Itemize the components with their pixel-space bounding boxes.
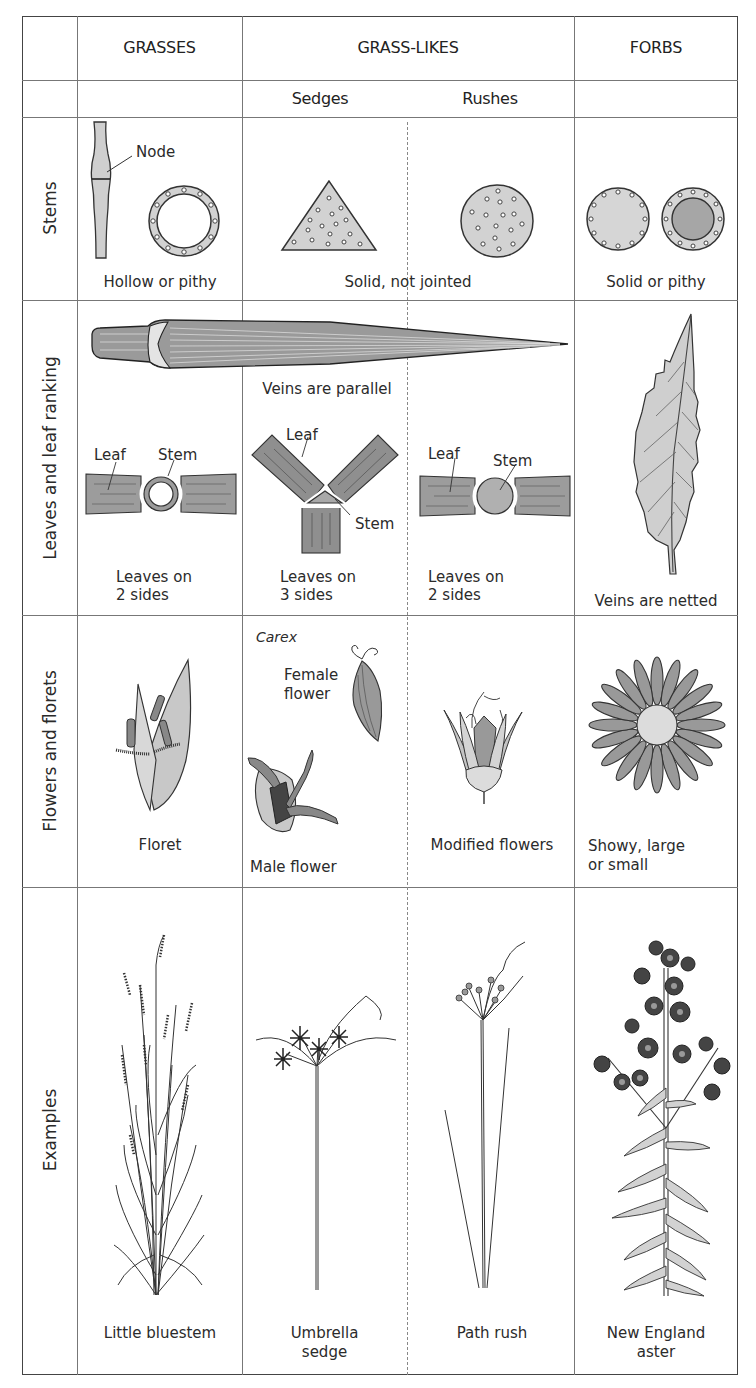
forb-pithy-stem-icon — [660, 186, 726, 252]
path-rush-caption: Path rush — [412, 1324, 572, 1342]
header-divider — [22, 80, 738, 81]
new-england-aster-caption-line2: aster — [574, 1343, 738, 1361]
parallel-veins-caption: Veins are parallel — [242, 380, 412, 398]
showy-caption-line2: or small — [588, 856, 648, 874]
row-divider-stems — [22, 300, 738, 301]
rush-leaves-caption-line1: Leaves on — [428, 568, 504, 586]
netted-vein-leaf-illustration — [618, 312, 718, 582]
node-callout: Node — [136, 143, 175, 161]
subheader-sedges: Sedges — [270, 89, 370, 108]
stems-grass-likes-caption: Solid, not jointed — [242, 273, 574, 291]
hollow-stem-cross-section-icon — [146, 183, 222, 259]
forb-solid-stem-icon — [585, 186, 651, 252]
row-label-leaves: Leaves and leaf ranking — [40, 338, 60, 578]
grass-leaves-caption-line2: 2 sides — [116, 586, 169, 604]
row-label-flowers: Flowers and florets — [40, 656, 60, 846]
subheader-divider — [22, 117, 738, 118]
little-bluestem-caption: Little bluestem — [80, 1324, 240, 1342]
sedge-leaves-caption-line2: 3 sides — [280, 586, 333, 604]
grass-leaf-ranking-diagram — [86, 468, 238, 520]
path-rush-plant-illustration — [445, 920, 545, 1290]
female-flower-label-line2: flower — [284, 685, 330, 703]
grass-stem-label: Stem — [158, 446, 197, 464]
rush-leaf-label: Leaf — [428, 445, 460, 463]
umbrella-sedge-caption-line2: sedge — [242, 1343, 407, 1361]
stems-grasses-caption: Hollow or pithy — [80, 273, 240, 291]
parallel-vein-leaf-illustration — [90, 316, 575, 376]
col-divider-forbs — [574, 16, 575, 1375]
floret-caption: Floret — [80, 836, 240, 854]
sedge-leaves-caption-line1: Leaves on — [280, 568, 356, 586]
sedge-stem-label: Stem — [355, 515, 394, 533]
modified-flowers-caption: Modified flowers — [412, 836, 572, 854]
dashed-divider-sedges-rushes — [407, 122, 408, 1375]
new-england-aster-caption-line1: New England — [574, 1324, 738, 1342]
showy-forb-flower-illustration — [584, 655, 730, 795]
umbrella-sedge-caption-line1: Umbrella — [242, 1324, 407, 1342]
rush-leaves-caption-line2: 2 sides — [428, 586, 481, 604]
carex-genus-label: Carex — [256, 628, 297, 646]
rush-stem-label: Stem — [493, 452, 532, 470]
new-england-aster-plant-illustration — [588, 928, 738, 1298]
grass-leaf-label: Leaf — [94, 446, 126, 464]
row-divider-leaves — [22, 615, 738, 616]
grass-floret-illustration — [116, 660, 196, 815]
netted-veins-caption: Veins are netted — [574, 592, 738, 610]
rush-flower-illustration — [444, 688, 534, 808]
subheader-rushes: Rushes — [440, 89, 540, 108]
female-flower-illustration — [340, 645, 390, 745]
female-flower-label-line1: Female — [284, 666, 338, 684]
male-flower-illustration — [246, 748, 346, 838]
header-grasses: GRASSES — [77, 38, 242, 57]
showy-caption-line1: Showy, large — [588, 837, 685, 855]
male-flower-label: Male flower — [250, 858, 337, 876]
little-bluestem-plant-illustration — [110, 935, 210, 1295]
col-divider-label — [77, 16, 78, 1375]
header-forbs: FORBS — [574, 38, 738, 57]
header-grass-likes: GRASS-LIKES — [242, 38, 574, 57]
col-divider-grasses — [242, 16, 243, 1375]
row-label-examples: Examples — [40, 1050, 60, 1210]
row-label-stems: Stems — [40, 128, 60, 288]
umbrella-sedge-plant-illustration — [256, 990, 406, 1300]
rush-round-stem-icon — [458, 182, 536, 260]
stems-forbs-caption: Solid or pithy — [574, 273, 738, 291]
sedge-triangular-stem-icon — [278, 178, 378, 254]
rush-leaf-ranking-diagram — [420, 470, 572, 522]
row-divider-flowers — [22, 887, 738, 888]
sedge-leaf-ranking-diagram — [250, 435, 400, 555]
grass-leaves-caption-line1: Leaves on — [116, 568, 192, 586]
sedge-leaf-label: Leaf — [286, 426, 318, 444]
